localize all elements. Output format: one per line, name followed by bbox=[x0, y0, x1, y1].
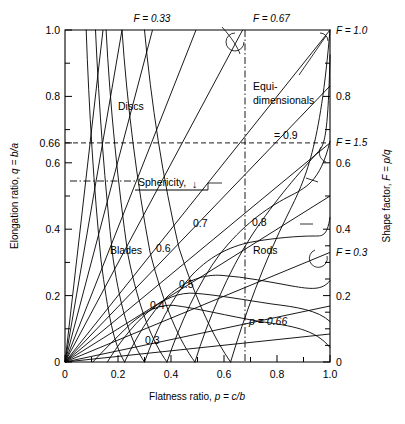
equidimensionals-leader bbox=[299, 36, 326, 75]
right-tick-label-0: 0 bbox=[336, 356, 342, 368]
left-tick-label-0.8: 0.8 bbox=[45, 90, 60, 102]
y-axis-title-right: Shape factor, F = p/q bbox=[381, 149, 392, 242]
sphericity-contours-lower bbox=[93, 30, 330, 362]
x-tick-label-0.2: 0.2 bbox=[111, 368, 126, 380]
label-sphericity-0.4: 0.4 bbox=[150, 299, 165, 311]
region-label-blades: Blades bbox=[110, 244, 142, 256]
sphericity-leader bbox=[208, 183, 222, 190]
sphericity-curve-upper-c bbox=[106, 30, 167, 362]
x-tick-label-0.8: 0.8 bbox=[270, 368, 285, 380]
arc-marker-top bbox=[226, 33, 244, 51]
sphericity-curve-upper-d bbox=[122, 30, 195, 362]
sphericity-label-group: Sphericity, ↓ bbox=[138, 176, 197, 190]
region-label-equi-line2: dimensionals bbox=[253, 94, 314, 106]
axis-titles: Flatness ratio, p = c/b Elongation ratio… bbox=[9, 143, 392, 402]
sphericity-curve-0.5 bbox=[125, 275, 330, 362]
region-label-discs: Discs bbox=[118, 100, 144, 112]
x-tick-label-1.0: 1.0 bbox=[323, 368, 338, 380]
label-sphericity: Sphericity, bbox=[138, 176, 186, 188]
x-tick-label-0: 0 bbox=[62, 368, 68, 380]
label-sphericity-0.5: 0.5 bbox=[179, 278, 194, 290]
equidimensionals-callout bbox=[299, 36, 326, 75]
label-sphericity-0.8: 0.8 bbox=[252, 216, 267, 228]
left-tick-label-0.6: 0.6 bbox=[45, 157, 60, 169]
label-f-1.5: F = 1.5 bbox=[336, 137, 368, 148]
label-sphericity-0.7: 0.7 bbox=[193, 217, 208, 229]
label-p-0.66: p = 0.66 bbox=[248, 315, 287, 327]
bottom-axis-ticks bbox=[65, 355, 330, 362]
f-line-aux-c bbox=[65, 30, 196, 362]
f-line-0.3 bbox=[65, 252, 330, 362]
right-tick-label-0.8: 0.8 bbox=[336, 90, 351, 102]
arc-marker-f03 bbox=[309, 250, 327, 267]
region-labels: Discs Blades Rods Equi- dimensionals bbox=[110, 80, 314, 256]
left-tick-label-0.2: 0.2 bbox=[45, 290, 60, 302]
right-tick-label-0.2: 0.2 bbox=[336, 290, 351, 302]
sphericity-arrow-icon: ↓ bbox=[192, 178, 197, 190]
region-label-equi-line1: Equi- bbox=[253, 80, 278, 92]
x-axis-title: Flatness ratio, p = c/b bbox=[149, 391, 245, 402]
region-label-rods: Rods bbox=[253, 244, 278, 256]
label-f-0.3: F = 0.3 bbox=[336, 247, 368, 258]
bottom-axis-tick-labels: 0 0.2 0.4 0.6 0.8 1.0 bbox=[62, 368, 337, 380]
label-sphericity-0.6: 0.6 bbox=[156, 242, 171, 254]
right-tick-label-0.6: 0.6 bbox=[336, 157, 351, 169]
right-tick-label-0.4: 0.4 bbox=[336, 223, 351, 235]
sphericity-contours-upper bbox=[86, 30, 230, 362]
y-axis-title-left: Elongation ratio, q = b/a bbox=[9, 143, 20, 249]
sphericity-value-labels: = 0.9 0.8 0.7 0.6 0.5 0.4 0.3 bbox=[145, 129, 298, 346]
label-f-1.0: F = 1.0 bbox=[336, 25, 368, 36]
left-tick-label-0.66: 0.66 bbox=[40, 137, 61, 149]
zingg-diagram-figure: 0 0.2 0.4 0.6 0.66 0.8 1.0 0 0.2 0.4 bbox=[0, 0, 405, 424]
left-axis-tick-labels: 0 0.2 0.4 0.6 0.66 0.8 1.0 bbox=[40, 24, 61, 368]
x-tick-label-0.4: 0.4 bbox=[164, 368, 179, 380]
label-f-0.67: F = 0.67 bbox=[253, 13, 290, 24]
x-tick-label-0.6: 0.6 bbox=[217, 368, 232, 380]
p-066-annotation-group: p = 0.66 bbox=[248, 315, 287, 327]
left-tick-label-0.4: 0.4 bbox=[45, 223, 60, 235]
chart-canvas: 0 0.2 0.4 0.6 0.66 0.8 1.0 0 0.2 0.4 bbox=[0, 0, 405, 424]
top-f-labels: F = 0.33 F = 0.67 bbox=[134, 13, 291, 24]
f-line-aux-b bbox=[65, 30, 122, 362]
left-tick-label-0: 0 bbox=[54, 356, 60, 368]
label-sphericity-0.3: 0.3 bbox=[145, 334, 160, 346]
left-tick-label-1.0: 1.0 bbox=[45, 24, 60, 36]
f-line-aux-a bbox=[65, 30, 103, 362]
sphericity-curve-upper-e bbox=[145, 30, 231, 362]
right-axis-tick-labels: 0 0.2 0.4 0.6 0.8 bbox=[336, 90, 351, 368]
label-sphericity-0.9: = 0.9 bbox=[274, 129, 298, 141]
label-f-0.33: F = 0.33 bbox=[134, 13, 171, 24]
